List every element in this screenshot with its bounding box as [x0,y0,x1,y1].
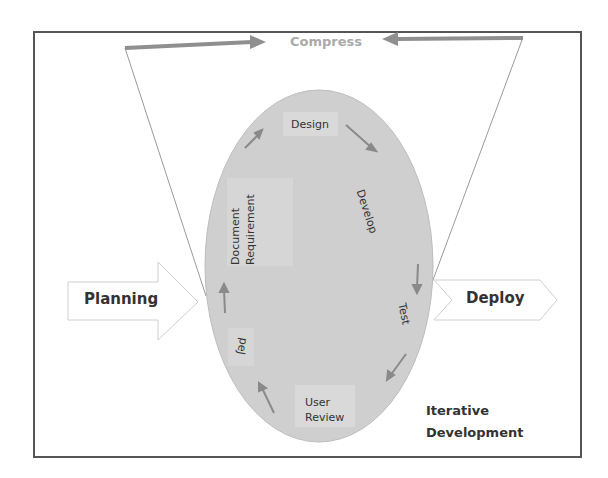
step-document-requirement: Document Requirement [228,194,258,265]
compress-arrow-right-icon [382,32,523,46]
step-user-review: User Review [305,395,344,425]
step-document-line1: Document [228,194,243,265]
compress-arrow-left-icon [125,35,266,49]
iterative-label-line1: Iterative [426,400,523,422]
step-document-line2: Requirement [243,194,258,265]
iterative-label-line2: Development [426,422,523,444]
funnel-line-right [430,40,522,288]
step-design: Design [291,118,329,131]
step-user-review-line1: User [305,395,344,410]
planning-label: Planning [84,290,158,308]
deploy-label: Deploy [466,289,525,307]
compress-label: Compress [290,34,362,49]
funnel-line-left [125,48,206,296]
iterative-development-label: Iterative Development [426,400,523,444]
step-user-review-line2: Review [305,410,344,425]
